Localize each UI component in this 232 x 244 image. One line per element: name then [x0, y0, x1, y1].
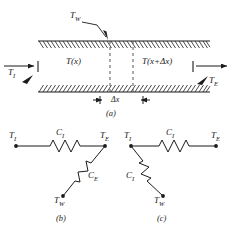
label-c-resistor-series: CI — [166, 128, 174, 140]
label-section-right: T(x+Δx) — [142, 57, 172, 66]
node-dot-te-c — [214, 144, 218, 148]
label-inlet-temperature: TI — [8, 68, 15, 80]
exit-flow-arrow — [193, 61, 227, 72]
label-c-resistor-diagonal: CI — [126, 171, 134, 183]
label-b-resistor-diagonal: CE — [88, 171, 98, 183]
caption-panel-a: (a) — [106, 108, 116, 118]
exit-temp-leader — [197, 76, 208, 85]
label-wall-temperature: TW — [70, 11, 80, 23]
inlet-temp-leader — [22, 75, 33, 84]
duct-top-wall — [38, 41, 210, 48]
label-exit-temperature: TE — [209, 76, 218, 88]
node-dot-ti-b — [14, 144, 18, 148]
label-b-node-tw: TW — [54, 196, 64, 208]
label-b-resistor-series: CI — [56, 128, 64, 140]
wall-temp-leader — [82, 22, 108, 40]
network-c — [129, 140, 218, 198]
network-b — [14, 140, 107, 198]
label-b-node-ti: TI — [9, 131, 16, 143]
control-volume-boundaries — [110, 41, 133, 92]
label-section-left: T(x) — [66, 57, 81, 66]
label-c-node-ti: TI — [124, 131, 131, 143]
caption-panel-c: (c) — [157, 213, 166, 223]
delta-x-dimension — [93, 96, 150, 104]
node-dot-te-b — [103, 144, 107, 148]
figure-root: TW TI TE T(x) T(x+Δx) Δx (a) TI TE TW CI… — [0, 0, 232, 244]
duct-bottom-wall — [38, 85, 210, 92]
label-c-node-te: TE — [211, 131, 220, 143]
figure-graphics — [0, 0, 232, 244]
node-dot-ti-c — [129, 144, 133, 148]
label-b-node-te: TE — [100, 131, 109, 143]
label-c-node-tw: TW — [154, 196, 164, 208]
label-delta-x: Δx — [111, 95, 119, 104]
caption-panel-b: (b) — [56, 213, 66, 223]
